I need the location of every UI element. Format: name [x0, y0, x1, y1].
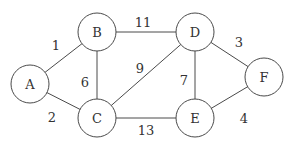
node-label: C — [92, 111, 102, 126]
edge-weight-a-c: 2 — [48, 110, 56, 125]
edge-weight-d-e: 7 — [180, 73, 188, 88]
node-label: A — [24, 77, 35, 92]
graph-diagram: 12611913734 ABCDEF — [0, 0, 293, 150]
node-b: B — [78, 13, 116, 51]
node-d: D — [176, 13, 214, 51]
node-c: C — [78, 99, 116, 137]
edge-weight-e-f: 4 — [240, 111, 248, 126]
edge-weight-b-c: 6 — [81, 75, 89, 90]
node-a: A — [11, 65, 49, 103]
node-label: F — [259, 70, 268, 85]
edge-weight-c-e: 13 — [138, 123, 155, 138]
edge-weight-c-d: 9 — [136, 61, 144, 76]
node-label: E — [190, 111, 200, 126]
node-f: F — [245, 58, 283, 96]
node-label: D — [190, 25, 200, 40]
edges-layer — [30, 32, 264, 118]
edge-weight-a-b: 1 — [52, 38, 60, 53]
edge-weight-d-f: 3 — [235, 35, 243, 50]
node-e: E — [176, 99, 214, 137]
edge-weight-b-d: 11 — [135, 15, 152, 30]
node-label: B — [92, 25, 102, 40]
